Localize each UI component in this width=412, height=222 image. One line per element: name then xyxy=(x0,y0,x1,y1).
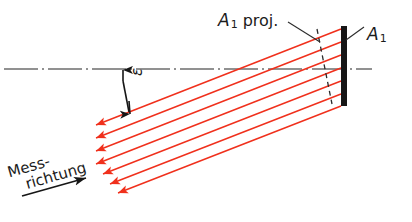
label-a1-projection-word: proj. xyxy=(238,11,279,30)
projected-width-dashed-line xyxy=(317,29,332,104)
a1-proj-leader-line xyxy=(288,22,320,42)
ray-6 xyxy=(110,94,341,184)
label-incidence-angle: ε xyxy=(128,68,146,76)
ray-5 xyxy=(103,81,341,174)
label-surface-a1-subscript: 1 xyxy=(379,32,387,45)
label-a1-projection: A1proj. xyxy=(218,10,278,31)
ray-1 xyxy=(96,29,341,125)
a1-leader-line xyxy=(346,27,364,40)
diagram-vector-layer xyxy=(0,0,412,222)
label-a1-projection-letter: A xyxy=(218,10,230,30)
ray-4 xyxy=(96,68,341,164)
ray-7 xyxy=(118,106,341,193)
diagram-canvas: A1proj. A1 ε Mess- richtung xyxy=(0,0,412,222)
measurement-rays xyxy=(96,29,341,193)
label-surface-a1-letter: A xyxy=(367,24,379,44)
incidence-angle-dimension xyxy=(123,70,130,114)
label-a1-projection-subscript: 1 xyxy=(230,18,238,31)
label-surface-a1: A1 xyxy=(367,24,387,45)
ray-2 xyxy=(96,42,341,138)
surface-a1-bar xyxy=(341,26,347,106)
